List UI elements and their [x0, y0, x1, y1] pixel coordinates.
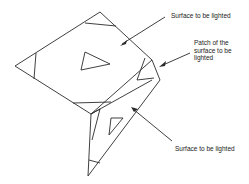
arrow-surface-top: [120, 17, 165, 46]
geometry-diagram: [0, 0, 249, 184]
label-patch: Patch of the surface to be lighted: [194, 39, 232, 62]
arrow-surface-bottom: [131, 107, 172, 141]
upper-surface: [15, 12, 152, 114]
lower-surface: [88, 80, 160, 176]
label-patch-line3: lighted: [194, 54, 232, 62]
label-surface-bottom: Surface to be lighted: [175, 145, 235, 153]
arrow-patch: [159, 53, 190, 67]
label-surface-top: Surface to be lighted: [171, 12, 231, 20]
patch-surface: [137, 58, 160, 80]
label-patch-line2: surface to be: [194, 47, 232, 55]
label-patch-line1: Patch of the: [194, 39, 232, 47]
